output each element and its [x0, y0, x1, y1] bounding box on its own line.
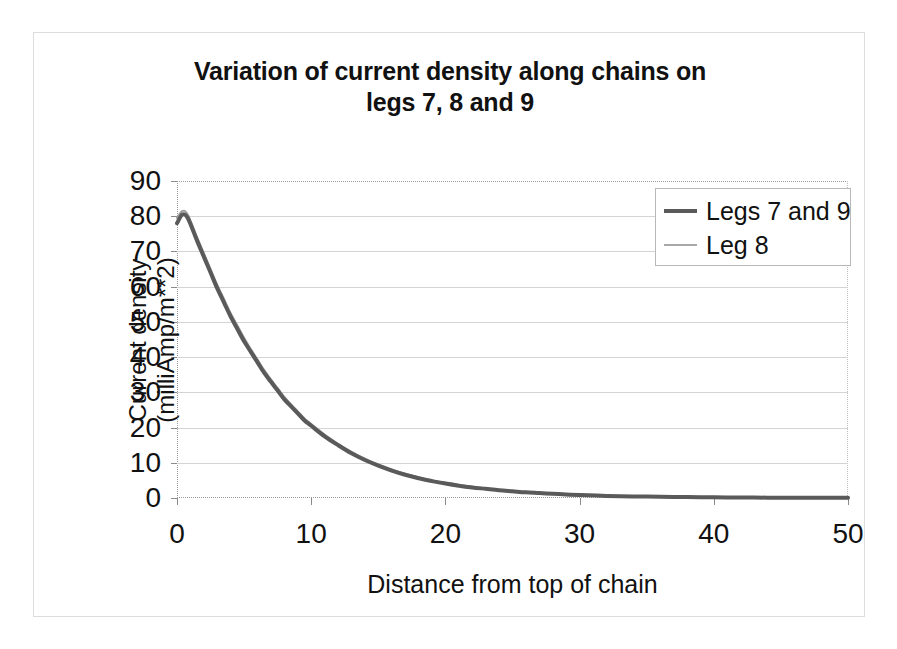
x-axis-title: Distance from top of chain — [177, 570, 848, 599]
x-axis-tick-label: 10 — [276, 520, 346, 548]
chart-figure: Variation of current density along chain… — [0, 0, 897, 649]
legend-item-label: Legs 7 and 9 — [706, 199, 851, 224]
x-axis-tick-label: 20 — [410, 520, 480, 548]
legend-item-label: Leg 8 — [706, 233, 769, 258]
x-axis-tick — [445, 498, 446, 505]
legend-line-icon — [664, 244, 697, 246]
x-axis-tick — [580, 498, 581, 505]
x-axis-tick — [311, 498, 312, 505]
legend-item[interactable]: Leg 8 — [664, 228, 850, 262]
legend-line-icon — [664, 209, 697, 213]
x-axis-tick-label: 0 — [142, 520, 212, 548]
chart-title: Variation of current density along chain… — [110, 56, 790, 118]
legend: Legs 7 and 9 Leg 8 — [655, 188, 851, 266]
legend-item[interactable]: Legs 7 and 9 — [664, 194, 850, 228]
y-axis-title: Current density (milliAmp/m**2) — [124, 175, 180, 505]
x-axis-tick-label: 50 — [813, 520, 883, 548]
x-axis-tick-label: 40 — [679, 520, 749, 548]
x-axis-tick-label: 30 — [545, 520, 615, 548]
